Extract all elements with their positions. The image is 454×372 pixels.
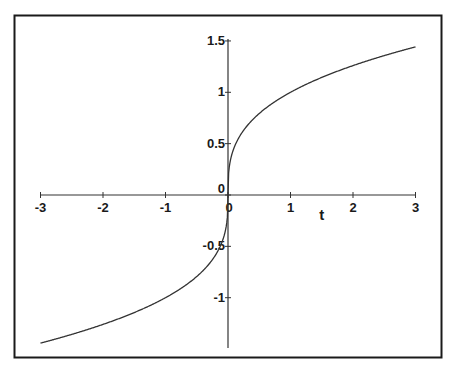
x-tick-label: 2 bbox=[349, 200, 356, 215]
y-tick-label: -0.5 bbox=[203, 238, 225, 253]
x-tick-label: 1 bbox=[287, 200, 294, 215]
y-tick-label: 0.5 bbox=[207, 136, 225, 151]
x-tick-label: 3 bbox=[412, 200, 419, 215]
y-tick-label: 1.5 bbox=[207, 33, 225, 48]
x-axis-label: t bbox=[319, 206, 324, 223]
x-tick-label: 0 bbox=[225, 200, 232, 215]
x-tick-label: -1 bbox=[160, 200, 172, 215]
y-tick-label: -1 bbox=[213, 290, 225, 305]
y-tick-label: 1 bbox=[218, 84, 225, 99]
x-tick-label: -2 bbox=[97, 200, 109, 215]
y-tick-label: 0 bbox=[218, 181, 225, 196]
x-tick-label: -3 bbox=[35, 200, 47, 215]
chart-canvas: -3-2-10123-1-0.500.511.5 t bbox=[0, 0, 454, 372]
